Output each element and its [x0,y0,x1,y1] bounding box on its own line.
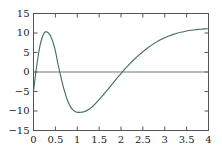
x-tick-label: 3.5 [179,134,195,145]
x-tick-label: 2.5 [135,134,151,145]
y-tick-labels: 151050−5−10−15 [8,8,29,136]
x-tick-label: 0.5 [47,134,63,145]
data-series-group [34,29,209,113]
y-tick-label: −10 [8,105,29,116]
x-tick-label: 3 [162,134,168,145]
x-tick-labels: 00.511.522.533.54 [30,134,211,145]
x-tick-label: 2 [118,134,124,145]
y-tick-label: 5 [23,47,29,58]
plot-canvas: 151050−5−10−15 00.511.522.533.54 [0,0,222,155]
x-tick-label: 1 [74,134,80,145]
y-tick-label: 10 [17,27,30,38]
y-tick-label: 0 [23,66,29,77]
x-tick-label: 1.5 [91,134,107,145]
x-tick-label: 4 [205,134,211,145]
y-tick-label: 15 [17,8,30,19]
x-tick-label: 0 [30,134,36,145]
y-tick-label: −5 [15,86,30,97]
chart-figure: 151050−5−10−15 00.511.522.533.54 [0,0,222,155]
y-tick-label: −15 [8,125,29,136]
series-line [34,29,209,113]
